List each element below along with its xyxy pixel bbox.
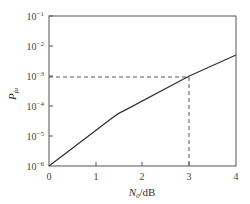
svg-text:0: 0 xyxy=(47,171,52,182)
x-axis-ticks xyxy=(96,162,189,166)
svg-text:10−5: 10−5 xyxy=(27,130,45,142)
svg-text:2: 2 xyxy=(140,171,145,182)
svg-text:10−4: 10−4 xyxy=(27,100,45,112)
svg-text:10−1: 10−1 xyxy=(27,10,45,22)
svg-text:4: 4 xyxy=(234,171,239,182)
y-axis-tick-labels: 10−1 10−2 10−3 10−4 10−5 10−6 xyxy=(27,10,45,172)
svg-text:10−6: 10−6 xyxy=(27,160,45,172)
pfa-vs-n0-chart: 10−1 10−2 10−3 10−4 10−5 10−6 0 1 2 3 4 … xyxy=(0,0,250,204)
svg-text:1: 1 xyxy=(94,171,99,182)
x-axis-label: N0/dB xyxy=(128,186,156,200)
reference-dashed-lines xyxy=(49,77,189,166)
y-axis-label: Pfa xyxy=(6,87,20,101)
y-axis-ticks xyxy=(49,16,53,136)
svg-text:10−3: 10−3 xyxy=(27,70,45,82)
svg-text:10−2: 10−2 xyxy=(27,40,45,52)
svg-text:3: 3 xyxy=(187,171,192,182)
plot-frame xyxy=(49,16,236,166)
pfa-curve-line xyxy=(49,55,236,166)
x-axis-tick-labels: 0 1 2 3 4 xyxy=(47,171,239,182)
